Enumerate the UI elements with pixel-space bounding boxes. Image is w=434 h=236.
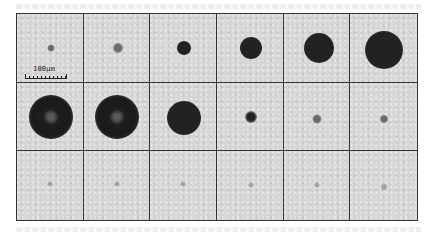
frame-r2-c2 [84,83,151,152]
frame-r3-c5 [284,151,351,220]
droplet-spot [177,41,191,55]
frame-r3-c4 [217,151,284,220]
page-bleed-through-top [16,4,421,9]
scale-bar-label: 100µm [33,65,55,73]
frame-r2-c6 [350,83,417,152]
frame-r1-c1: 100µm [17,14,84,83]
scale-bar-ruler [25,74,67,79]
frame-r1-c3 [150,14,217,83]
frame-r3-c6 [350,151,417,220]
droplet-spot [245,111,257,123]
frame-r1-c6 [350,14,417,83]
droplet-spot [248,183,253,188]
droplet-spot [381,184,387,190]
droplet-spot [380,115,388,123]
droplet-spot [365,31,403,69]
droplet-spot [48,45,55,52]
droplet-spot [312,114,321,123]
droplet-spot [181,182,186,187]
frame-r2-c4 [217,83,284,152]
scale-bar: 100µm [25,65,69,81]
droplet-spot [29,95,73,139]
droplet-spot [48,182,53,187]
droplet-spot [95,95,139,139]
image-grid-figure: 100µm [16,13,418,221]
frame-r2-c1 [17,83,84,152]
page-bleed-through-bottom [16,227,421,232]
frame-r1-c4 [217,14,284,83]
droplet-spot [240,37,262,59]
frame-r2-c3 [150,83,217,152]
droplet-spot [304,33,334,63]
frame-r1-c5 [284,14,351,83]
droplet-spot [113,43,123,53]
droplet-spot [167,101,201,135]
frame-r3-c3 [150,151,217,220]
frame-r1-c2 [84,14,151,83]
droplet-spot [314,183,319,188]
frame-r3-c1 [17,151,84,220]
frame-r3-c2 [84,151,151,220]
frame-r2-c5 [284,83,351,152]
droplet-spot [114,182,119,187]
